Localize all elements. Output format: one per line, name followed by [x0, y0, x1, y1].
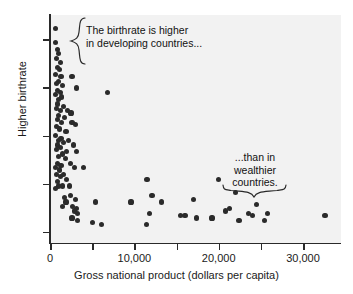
data-point: [93, 199, 98, 204]
y-axis-tick: [43, 39, 50, 41]
y-axis-tick: [43, 184, 50, 186]
bottom-curly-brace-icon: [222, 184, 288, 200]
data-point: [262, 218, 267, 223]
data-point: [254, 202, 259, 207]
y-axis-label: Higher birthrate: [16, 34, 28, 164]
x-axis-tick-label: 0: [47, 252, 53, 264]
data-point: [69, 215, 74, 220]
data-point: [60, 183, 65, 188]
data-point: [56, 154, 61, 159]
x-axis-tick: [92, 244, 94, 250]
data-point: [209, 215, 214, 220]
data-point: [159, 199, 164, 204]
x-axis-tick-label: 10,000: [118, 252, 152, 264]
scatter-plot-figure: 010,00020,00030,000 Gross national produ…: [0, 0, 353, 294]
plot-area: [50, 15, 341, 243]
x-axis-tick-label: 30,000: [286, 252, 320, 264]
x-axis-tick: [303, 244, 305, 250]
data-point: [194, 215, 199, 220]
y-axis-tick: [43, 87, 50, 89]
data-point: [57, 126, 62, 131]
y-axis-line: [49, 14, 51, 244]
x-axis-tick: [50, 244, 52, 250]
data-point: [67, 183, 72, 188]
x-axis-tick: [261, 244, 263, 250]
data-point: [68, 193, 73, 198]
left-curly-brace-icon: [68, 17, 88, 65]
x-axis-tick: [177, 244, 179, 250]
data-point: [63, 129, 68, 134]
data-point: [322, 213, 327, 218]
data-point: [182, 213, 187, 218]
data-point: [74, 85, 79, 90]
annotation-wealthier-countries: ...than in wealthier countries.: [224, 151, 286, 189]
data-point: [68, 110, 73, 115]
data-point: [71, 142, 76, 147]
data-point: [128, 199, 133, 204]
y-axis-tick: [43, 136, 50, 138]
data-point: [147, 211, 152, 216]
x-axis-tick-label: 20,000: [202, 252, 236, 264]
data-point: [73, 122, 78, 127]
data-point: [69, 74, 74, 79]
data-point: [236, 218, 241, 223]
y-axis-tick: [43, 232, 50, 234]
data-point: [90, 220, 95, 225]
x-axis-label: Gross national product (dollars per capi…: [0, 269, 353, 281]
x-axis-tick: [134, 244, 136, 250]
data-point: [149, 193, 154, 198]
x-axis-tick: [219, 244, 221, 250]
data-point: [63, 156, 68, 161]
data-point: [144, 177, 149, 182]
data-point: [216, 177, 221, 182]
data-point: [105, 90, 110, 95]
annotation-developing-countries: The birthrate is higher in developing co…: [86, 24, 202, 49]
